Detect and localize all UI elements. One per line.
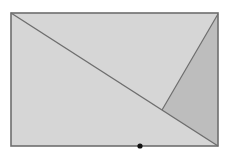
point-on-bottom-edge — [137, 143, 142, 148]
geometry-diagram — [0, 0, 227, 162]
